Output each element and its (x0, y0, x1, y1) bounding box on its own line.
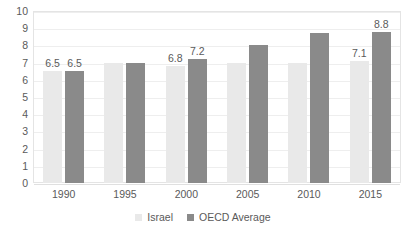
bar-pair (278, 11, 339, 183)
bar[interactable] (43, 71, 62, 183)
bar-value-label: 6.8 (168, 53, 183, 64)
y-axis-tick-label: 9 (0, 23, 28, 33)
bar[interactable] (188, 59, 207, 183)
x-axis-tick-label: 2000 (156, 187, 217, 203)
bar[interactable] (372, 32, 391, 183)
x-axis: 199019952000200520102015 (33, 187, 401, 203)
legend-swatch-icon (187, 214, 194, 221)
bar-group: 7.18.8 (340, 11, 401, 183)
legend-item-israel[interactable]: Israel (135, 212, 173, 223)
bar-value-label: 6.5 (45, 58, 60, 69)
legend-item-oecd-average[interactable]: OECD Average (187, 212, 271, 223)
bar-column: 8.8 (372, 11, 391, 183)
bar[interactable] (104, 63, 123, 183)
bar-column (288, 11, 307, 183)
y-axis-tick-label: 10 (0, 6, 28, 16)
bar-groups: 6.56.56.87.27.18.8 (33, 11, 401, 183)
bar-group (94, 11, 155, 183)
gridline (34, 184, 400, 185)
x-axis-tick-label: 2010 (278, 187, 339, 203)
bar-column (310, 11, 329, 183)
bar-group (278, 11, 339, 183)
bar[interactable] (249, 45, 268, 183)
bar-pair: 6.87.2 (156, 11, 217, 183)
bar-value-label: 7.2 (190, 46, 205, 57)
y-axis-tick-label: 1 (0, 161, 28, 171)
chart-legend: Israel OECD Average (0, 209, 406, 225)
bar[interactable] (288, 63, 307, 183)
bar[interactable] (310, 33, 329, 183)
y-axis-tick-label: 4 (0, 109, 28, 119)
bar-pair: 7.18.8 (340, 11, 401, 183)
y-axis-tick-label: 6 (0, 75, 28, 85)
bar-column (126, 11, 145, 183)
x-axis-tick-label: 2015 (340, 187, 401, 203)
y-axis: 109876543210 (0, 11, 28, 183)
bar-column: 6.5 (65, 11, 84, 183)
bar[interactable] (350, 61, 369, 183)
y-axis-tick-label: 2 (0, 144, 28, 154)
bar-group: 6.87.2 (156, 11, 217, 183)
bar-column: 7.1 (350, 11, 369, 183)
legend-label: Israel (147, 212, 173, 223)
bar-value-label: 8.8 (374, 19, 389, 30)
y-axis-tick-label: 8 (0, 40, 28, 50)
bar-column: 7.2 (188, 11, 207, 183)
bar-value-label: 7.1 (352, 48, 367, 59)
legend-label: OECD Average (199, 212, 271, 223)
y-axis-tick-label: 0 (0, 178, 28, 188)
bar-column: 6.8 (166, 11, 185, 183)
x-axis-tick-label: 1995 (94, 187, 155, 203)
bar-chart: 109876543210 6.56.56.87.27.18.8 19901995… (0, 0, 406, 237)
bar-value-label: 6.5 (67, 58, 82, 69)
bar[interactable] (65, 71, 84, 183)
bar-column (249, 11, 268, 183)
bar-column (227, 11, 246, 183)
bar-column: 6.5 (43, 11, 62, 183)
y-axis-tick-label: 3 (0, 126, 28, 136)
bar-group: 6.56.5 (33, 11, 94, 183)
y-axis-tick-label: 5 (0, 92, 28, 102)
bar-pair: 6.56.5 (33, 11, 94, 183)
bar-pair (94, 11, 155, 183)
bar-column (104, 11, 123, 183)
y-axis-tick-label: 7 (0, 58, 28, 68)
bar-group (217, 11, 278, 183)
bar[interactable] (166, 66, 185, 183)
legend-swatch-icon (135, 214, 142, 221)
x-axis-tick-label: 1990 (33, 187, 94, 203)
bar[interactable] (227, 63, 246, 183)
x-axis-tick-label: 2005 (217, 187, 278, 203)
bar[interactable] (126, 63, 145, 183)
bar-pair (217, 11, 278, 183)
